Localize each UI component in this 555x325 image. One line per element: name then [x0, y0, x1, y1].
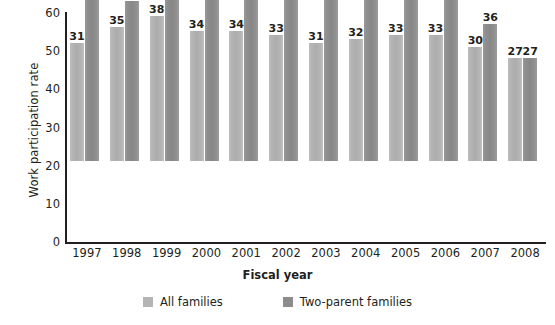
bar-chart: Work participation rate 0102030405060 31…	[0, 0, 555, 325]
bar[interactable]: 42	[125, 1, 139, 161]
x-tick-label: 2008	[503, 246, 547, 260]
bar-value-label: 33	[428, 23, 443, 34]
y-tick-label: 50	[32, 44, 60, 58]
bar[interactable]: 30	[468, 47, 482, 162]
x-tick-label: 2007	[463, 246, 507, 260]
bar-group: 3343	[389, 0, 421, 161]
bar-value-label: 31	[308, 31, 323, 42]
bar-group: 3349	[269, 0, 301, 161]
bar-value-label: 33	[388, 23, 403, 34]
bar[interactable]: 36	[483, 24, 497, 161]
legend-item[interactable]: Two-parent families	[283, 295, 412, 309]
bar[interactable]: 43	[404, 0, 418, 161]
bar-group: 3145	[70, 0, 102, 161]
bar-group: 3451	[229, 0, 261, 161]
bar-value-label: 30	[468, 35, 483, 46]
bar[interactable]: 46	[444, 0, 458, 161]
x-tick-label: 2003	[304, 246, 348, 260]
bar-value-label: 27	[508, 46, 523, 57]
bar[interactable]: 47	[364, 0, 378, 161]
chart-legend: All familiesTwo-parent families	[0, 295, 555, 309]
bar[interactable]: 49	[324, 0, 338, 161]
x-tick-label: 2006	[423, 246, 467, 260]
bar[interactable]: 45	[85, 0, 99, 161]
legend-label: Two-parent families	[300, 295, 412, 309]
bar[interactable]: 31	[70, 43, 84, 161]
bar-group: 3855	[150, 0, 182, 161]
bar-group: 2727	[508, 0, 540, 161]
bar[interactable]: 33	[429, 35, 443, 161]
x-tick-label: 1998	[105, 246, 149, 260]
legend-item[interactable]: All families	[143, 295, 223, 309]
y-tick-label: 0	[32, 235, 60, 249]
bar[interactable]: 32	[349, 39, 363, 161]
legend-swatch-icon	[143, 297, 153, 307]
bar[interactable]: 55	[165, 0, 179, 161]
bar[interactable]: 35	[110, 27, 124, 161]
x-tick-label: 2005	[384, 246, 428, 260]
bar-group: 3247	[349, 0, 381, 161]
bar-value-label: 34	[229, 19, 244, 30]
bar-value-label: 34	[189, 19, 204, 30]
x-tick-label: 2002	[264, 246, 308, 260]
y-tick-label: 20	[32, 159, 60, 173]
bar[interactable]: 38	[150, 16, 164, 161]
bar-value-label: 31	[69, 31, 84, 42]
bar[interactable]: 33	[389, 35, 403, 161]
bar[interactable]: 33	[269, 35, 283, 161]
bar[interactable]: 27	[523, 58, 537, 161]
x-tick-label: 1997	[65, 246, 109, 260]
legend-swatch-icon	[283, 297, 293, 307]
bar[interactable]: 31	[309, 43, 323, 161]
bar-value-label: 35	[109, 15, 124, 26]
bar-group: 3036	[468, 0, 500, 161]
bar[interactable]: 49	[205, 0, 219, 161]
y-tick-label: 30	[32, 121, 60, 135]
y-tick-label: 60	[32, 6, 60, 20]
bar-groups: 3145354238553449345133493149324733433346…	[67, 0, 545, 244]
bar-value-label: 32	[348, 27, 363, 38]
bar-value-label: 27	[523, 46, 538, 57]
x-tick-label: 1999	[145, 246, 189, 260]
x-tick-label: 2004	[344, 246, 388, 260]
x-tick-label: 2001	[224, 246, 268, 260]
x-axis-title: Fiscal year	[0, 268, 555, 282]
bar-group: 3346	[429, 0, 461, 161]
y-tick-label: 40	[32, 82, 60, 96]
bar-value-label: 38	[149, 4, 164, 15]
bar-group: 3542	[110, 0, 142, 161]
y-tick-label: 10	[32, 197, 60, 211]
x-axis-ticks: 1997199819992000200120022003200420052006…	[67, 246, 545, 266]
bar[interactable]: 51	[244, 0, 258, 161]
bar[interactable]: 34	[190, 31, 204, 161]
bar-value-label: 33	[269, 23, 284, 34]
bar-group: 3149	[309, 0, 341, 161]
bar-value-label: 36	[483, 12, 498, 23]
bar[interactable]: 49	[284, 0, 298, 161]
legend-label: All families	[160, 295, 223, 309]
bar[interactable]: 34	[229, 31, 243, 161]
bar[interactable]: 27	[508, 58, 522, 161]
x-tick-label: 2000	[184, 246, 228, 260]
bar-group: 3449	[190, 0, 222, 161]
